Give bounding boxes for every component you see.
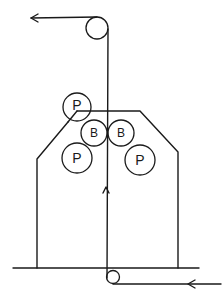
belt-roller-left: B (81, 120, 107, 146)
bottom-pulley (107, 271, 120, 284)
press-roller-bottom-left: P (62, 143, 92, 173)
press-roller-top-left: P (63, 93, 91, 121)
housing-outline (37, 122, 68, 268)
output-line (31, 17, 97, 18)
roller-diagram: P B B P P (0, 0, 222, 302)
roller-label: P (72, 97, 81, 113)
housing-frame (13, 111, 199, 268)
roller-label: B (90, 126, 98, 140)
web-path (31, 14, 221, 288)
belt-roller-right: B (108, 120, 134, 146)
vertical-web-line (107, 29, 108, 278)
roller-label: P (135, 152, 144, 168)
roller-label: P (72, 150, 81, 166)
press-roller-bottom-right: P (125, 145, 155, 175)
top-pulley (86, 17, 108, 39)
roller-label: B (117, 126, 125, 140)
upward-flow-arrow-head (103, 187, 109, 193)
